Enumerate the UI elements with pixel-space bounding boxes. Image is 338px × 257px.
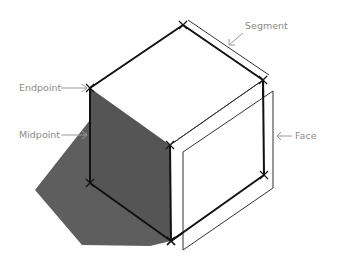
face-highlight — [183, 91, 273, 250]
endpoint-label: Endpoint — [19, 82, 62, 93]
face-arrow-icon — [277, 132, 292, 140]
midpoint-label: Midpoint — [19, 129, 60, 140]
segment-label: Segment — [245, 20, 288, 31]
segment-arrow-icon — [229, 33, 243, 45]
midpoint-arrow-icon — [61, 131, 87, 139]
face-label: Face — [295, 130, 317, 141]
cube-diagram: Endpoint Midpoint Segment Face — [0, 0, 338, 257]
endpoint-arrow-icon — [61, 84, 87, 92]
